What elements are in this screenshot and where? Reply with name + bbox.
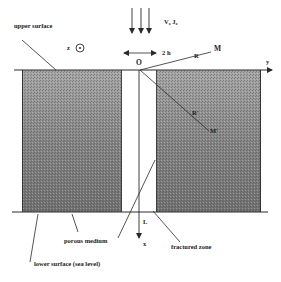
r-prime-label: R' bbox=[192, 110, 199, 117]
flux-arrows bbox=[132, 8, 149, 33]
r-line bbox=[140, 52, 211, 70]
r-label: R bbox=[194, 53, 199, 60]
origin-label: O bbox=[136, 59, 142, 67]
z-axis-label: z bbox=[67, 45, 70, 52]
z-axis-out-icon bbox=[76, 44, 84, 52]
m-prime-label: M' bbox=[210, 128, 218, 135]
l-label: L bbox=[143, 219, 147, 226]
width-label: 2 h bbox=[162, 50, 171, 57]
porous-medium-label: porous medium bbox=[64, 238, 107, 245]
porous-block-right bbox=[156, 70, 261, 212]
x-axis-label: x bbox=[143, 241, 146, 248]
flux-label: V₀ J₀ bbox=[164, 19, 177, 26]
lower-surface-label: lower surface (sea level) bbox=[34, 261, 100, 268]
y-axis-label: y bbox=[266, 59, 269, 66]
upper-surface-label: upper surface bbox=[14, 23, 52, 30]
fractured-zone-label: fractured zone bbox=[171, 244, 212, 251]
porous-block-left bbox=[22, 70, 122, 212]
m-label: M bbox=[214, 45, 221, 53]
fracture-diagram bbox=[0, 0, 281, 282]
